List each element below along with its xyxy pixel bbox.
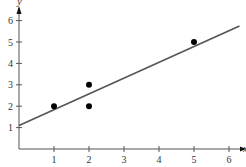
y-tick-label: 3 bbox=[8, 79, 13, 90]
y-tick-label: 1 bbox=[8, 122, 13, 133]
x-tick-label: 5 bbox=[192, 154, 197, 165]
data-point bbox=[51, 103, 57, 109]
y-axis-arrow-icon bbox=[17, 6, 22, 14]
data-point bbox=[86, 103, 92, 109]
data-point bbox=[191, 39, 197, 45]
x-tick-label: 1 bbox=[52, 154, 57, 165]
x-tick-label: 3 bbox=[122, 154, 127, 165]
y-tick-label: 2 bbox=[8, 101, 13, 112]
y-tick-label: 4 bbox=[8, 58, 13, 69]
y-tick-label: 6 bbox=[8, 15, 13, 26]
scatter-chart: xy 123456123456 bbox=[0, 0, 246, 167]
fit-line-segment bbox=[19, 26, 240, 126]
axes: xy bbox=[16, 0, 246, 154]
y-tick-label: 5 bbox=[8, 37, 13, 48]
ticks: 123456123456 bbox=[8, 15, 232, 165]
x-tick-label: 4 bbox=[157, 154, 162, 165]
x-axis-label: x bbox=[242, 143, 246, 154]
x-tick-label: 2 bbox=[87, 154, 92, 165]
x-tick-label: 6 bbox=[227, 154, 232, 165]
data-points bbox=[51, 39, 197, 109]
data-point bbox=[86, 82, 92, 88]
fit-line bbox=[19, 26, 240, 126]
y-axis-label: y bbox=[16, 0, 22, 7]
